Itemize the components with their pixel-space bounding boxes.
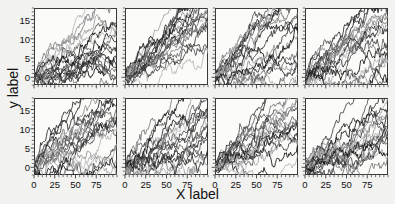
x-tick-label: 25 [140,179,151,190]
chart-panel-r1-c0: 0510150255075 [34,98,117,175]
y-tick-label: 10 [19,33,30,44]
x-tick-label: 25 [230,179,241,190]
chart-panel-r0-c1 [125,8,208,85]
x-tick-label: 25 [320,179,331,190]
axis-ticks [125,98,208,175]
y-tick-label: 5 [25,143,30,154]
y-tick-label: 5 [25,53,30,64]
axis-ticks [305,98,388,175]
chart-panel-r0-c2 [215,8,298,85]
x-tick-label: 50 [251,179,262,190]
y-tick-label: 10 [19,123,30,134]
chart-panel-r1-c2: 0255075 [215,98,298,175]
x-tick-label: 0 [302,179,307,190]
figure: y label X label 051015051015025507502550… [0,0,395,204]
axis-ticks [34,98,117,175]
x-tick-label: 0 [122,179,127,190]
y-tick-label: 15 [19,104,30,115]
x-tick-label: 50 [70,179,81,190]
x-tick-label: 75 [91,179,102,190]
axis-ticks [34,8,117,85]
y-tick-label: 0 [25,162,30,173]
axis-ticks [125,8,208,85]
axis-ticks [305,8,388,85]
x-tick-label: 75 [272,179,283,190]
x-tick-label: 50 [161,179,172,190]
x-tick-label: 0 [31,179,36,190]
x-tick-label: 25 [49,179,60,190]
axis-ticks [215,8,298,85]
x-tick-label: 0 [212,179,217,190]
chart-panel-r0-c3 [305,8,388,85]
x-tick-label: 50 [341,179,352,190]
x-tick-label: 75 [362,179,373,190]
y-tick-label: 15 [19,14,30,25]
x-tick-label: 75 [182,179,193,190]
y-tick-label: 0 [25,72,30,83]
chart-panel-r0-c0: 051015 [34,8,117,85]
axis-ticks [215,98,298,175]
chart-panel-r1-c3: 0255075 [305,98,388,175]
chart-panel-r1-c1: 0255075 [125,98,208,175]
